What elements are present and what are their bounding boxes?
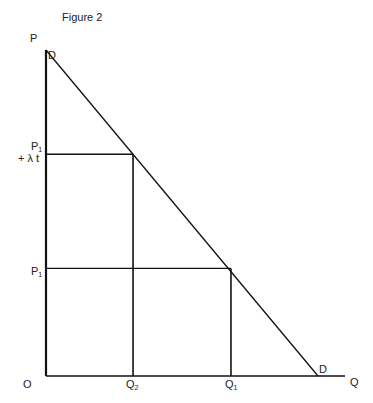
q2-label-sub: 2 <box>135 384 139 391</box>
price-axis-label: P <box>30 32 37 44</box>
demand-label-top: D <box>48 49 56 61</box>
origin-label: O <box>23 378 32 390</box>
diagram-canvas: Figure 2 P Q O D D P1 + λ t P1 Q2 Q1 <box>0 0 373 403</box>
q2-label: Q2 <box>126 378 139 391</box>
q1-label: Q1 <box>225 378 238 391</box>
quantity-axis-label: Q <box>350 376 359 388</box>
price-with-tax-label: P1 + λ t <box>18 140 42 164</box>
demand-label-bottom: D <box>319 363 327 375</box>
demand-curve <box>46 50 318 376</box>
q1-label-sub: 1 <box>234 384 238 391</box>
price-base-label-base: P <box>31 265 38 277</box>
price-base-label: P1 <box>31 265 42 278</box>
price-base-label-sub: 1 <box>38 271 42 278</box>
tax-term-label: + λ t <box>18 152 39 164</box>
price-with-tax-label-base: P <box>31 140 38 152</box>
figure-title: Figure 2 <box>62 11 102 23</box>
